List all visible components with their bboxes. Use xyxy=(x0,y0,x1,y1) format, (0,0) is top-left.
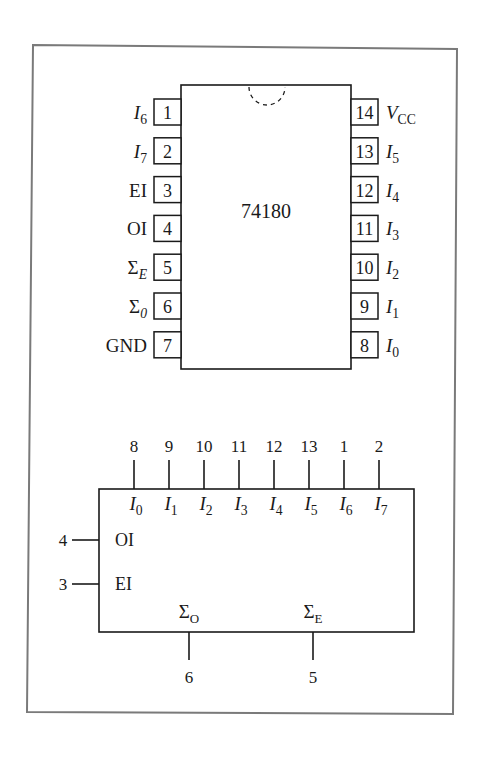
pin-label: I4 xyxy=(385,180,399,205)
pin-number: 2 xyxy=(163,142,172,162)
pin-number: 11 xyxy=(231,437,247,456)
signal-subscript: 1 xyxy=(392,306,399,321)
signal-subscript: 0 xyxy=(392,345,399,360)
logic-symbol: 8I09I110I211I312I413I51I62I7 4OI3EI 6ΣO5… xyxy=(59,437,414,687)
pin-label: EI xyxy=(129,180,147,201)
signal-subscript: 7 xyxy=(140,151,147,166)
input-I0: 8I0 xyxy=(128,437,142,518)
input-oi: 4OI xyxy=(59,530,134,550)
pin-14: 14VCC xyxy=(351,99,416,127)
pin-label: Σ0 xyxy=(129,296,147,321)
pin-label: I1 xyxy=(385,296,399,321)
signal-name: Σ xyxy=(303,601,314,622)
pin-13: 13I5 xyxy=(351,138,399,166)
pin-number: 10 xyxy=(196,437,213,456)
pin-9: 9I1 xyxy=(351,293,399,321)
pin-number: 10 xyxy=(356,258,374,278)
signal-subscript: 4 xyxy=(276,503,283,518)
pin-number: 6 xyxy=(185,668,194,687)
pin-label: GND xyxy=(106,335,147,356)
pin-6: 6Σ0 xyxy=(129,293,181,321)
pin-number: 7 xyxy=(163,336,172,356)
pin-number: 4 xyxy=(59,531,68,550)
pin-number: 2 xyxy=(375,437,384,456)
pin-number: 13 xyxy=(356,142,374,162)
signal-subscript: 5 xyxy=(392,151,399,166)
pin-10: 10I2 xyxy=(351,254,399,282)
pin-number: 1 xyxy=(163,103,172,123)
pin-3: 3EI xyxy=(129,177,181,203)
pin-number: 3 xyxy=(59,575,68,594)
dip-package: 74180 1I62I73EI4OI5ΣE6Σ07GND 14VCC13I512… xyxy=(106,85,416,369)
signal-subscript: CC xyxy=(398,112,416,127)
pin-number: 6 xyxy=(163,297,172,317)
pin-label: VCC xyxy=(386,102,416,127)
pin-number: 11 xyxy=(356,219,373,239)
logic-block xyxy=(99,489,414,632)
pin-number: 8 xyxy=(360,336,369,356)
signal-subscript: E xyxy=(315,611,323,626)
pin-number: 1 xyxy=(340,437,349,456)
pin-number: 5 xyxy=(163,258,172,278)
pin-4: 4OI xyxy=(127,215,181,241)
pin-number: 3 xyxy=(163,181,172,201)
output-sigma-o: 6ΣO xyxy=(179,601,199,687)
input-I6: 1I6 xyxy=(338,437,352,518)
signal-name: OI xyxy=(115,530,134,550)
pin-5: 5ΣE xyxy=(128,254,181,282)
signal-subscript: 6 xyxy=(346,503,353,518)
pin-label: OI xyxy=(127,218,147,239)
signal-name: Σ xyxy=(128,257,139,278)
pin-label: I6 xyxy=(133,102,147,127)
pin-number: 8 xyxy=(130,437,139,456)
pin-number: 12 xyxy=(266,437,283,456)
pin-7: 7GND xyxy=(106,332,181,358)
signal-subscript: 4 xyxy=(392,190,399,205)
pin-1: 1I6 xyxy=(133,99,181,127)
signal-subscript: 3 xyxy=(241,503,248,518)
pin-number: 5 xyxy=(309,668,318,687)
pin-label: I5 xyxy=(385,141,399,166)
part-number: 74180 xyxy=(241,200,291,222)
signal-subscript: 2 xyxy=(206,503,213,518)
pin-8: 8I0 xyxy=(351,332,399,360)
pin-label: ΣE xyxy=(128,257,148,282)
right-pin-group: 14VCC13I512I411I310I29I18I0 xyxy=(351,99,416,360)
signal-name: EI xyxy=(129,180,147,201)
parity-generator-diagram: 74180 1I62I73EI4OI5ΣE6Σ07GND 14VCC13I512… xyxy=(0,0,482,757)
input-I1: 9I1 xyxy=(163,437,177,518)
pin-11: 11I3 xyxy=(351,215,399,243)
signal-subscript: O xyxy=(190,611,199,626)
chip-body xyxy=(181,85,351,369)
pin-number: 9 xyxy=(360,297,369,317)
signal-name: OI xyxy=(127,218,147,239)
signal-subscript: 7 xyxy=(381,503,388,518)
pin-number: 9 xyxy=(165,437,174,456)
signal-name: GND xyxy=(106,335,147,356)
signal-subscript: 0 xyxy=(140,306,147,321)
signal-subscript: 2 xyxy=(392,267,399,282)
signal-name: Σ xyxy=(129,296,140,317)
signal-subscript: E xyxy=(138,267,148,282)
pin-number: 12 xyxy=(356,181,374,201)
pin-number: 4 xyxy=(163,219,172,239)
signal-subscript: 0 xyxy=(136,503,143,518)
signal-subscript: 3 xyxy=(392,228,399,243)
output-sigma-e: 5ΣE xyxy=(303,601,322,687)
pin-label: I3 xyxy=(385,218,399,243)
pin-12: 12I4 xyxy=(351,177,399,205)
left-pin-group: 1I62I73EI4OI5ΣE6Σ07GND xyxy=(106,99,181,358)
pin-label: I0 xyxy=(385,335,399,360)
pin-number: 13 xyxy=(301,437,318,456)
signal-subscript: 1 xyxy=(171,503,178,518)
pin-number: 14 xyxy=(356,103,374,123)
signal-subscript: 5 xyxy=(311,503,318,518)
signal-subscript: 6 xyxy=(140,112,147,127)
input-I7: 2I7 xyxy=(373,437,387,518)
pin-label: I7 xyxy=(133,141,147,166)
signal-name: EI xyxy=(115,574,132,594)
pin-2: 2I7 xyxy=(133,138,181,166)
signal-name: Σ xyxy=(179,601,190,622)
input-ei: 3EI xyxy=(59,574,132,594)
pin-label: I2 xyxy=(385,257,399,282)
